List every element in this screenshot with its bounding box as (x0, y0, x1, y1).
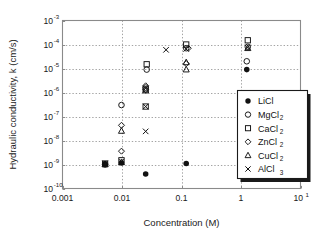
ytick-label: 10-5 (43, 61, 65, 73)
xtick-exponent: 1 (306, 191, 310, 198)
ytick-mantissa: 10 (43, 16, 53, 26)
xtick-value: 10 (294, 193, 304, 203)
legend-label: ZnCl (258, 137, 277, 147)
ytick-exponent: -3 (54, 13, 60, 20)
legend-label: LiCl (258, 96, 274, 106)
ytick-mantissa: 10 (43, 160, 53, 170)
data-point-marker (183, 161, 189, 167)
ytick-mantissa: 10 (43, 88, 53, 98)
xtick-value: 1 (239, 193, 244, 203)
ytick-exponent: -8 (54, 133, 60, 140)
ytick-mantissa: 10 (43, 136, 53, 146)
ytick-label: 10-6 (43, 85, 65, 97)
xtick-value: 0.001 (52, 193, 74, 203)
ytick-label: 10-9 (43, 157, 65, 169)
data-point-marker (244, 67, 250, 73)
ytick-label: 10-8 (43, 133, 65, 145)
legend-subscript: 2 (280, 128, 284, 135)
xtick-value: 0.1 (176, 193, 188, 203)
ytick-label: 10-4 (43, 37, 65, 49)
ytick-exponent: -7 (54, 109, 60, 116)
ytick-exponent: -5 (54, 61, 60, 68)
legend-label: CuCl (258, 151, 278, 161)
legend-subscript: 3 (280, 169, 284, 176)
legend-subscript: 2 (280, 141, 284, 148)
ytick-mantissa: 10 (43, 40, 53, 50)
ytick-exponent: -10 (54, 181, 63, 188)
legend-label: AlCl (258, 164, 275, 174)
ytick-label: 10-3 (43, 13, 65, 25)
legend-label: MgCl (258, 110, 279, 120)
ytick-exponent: -9 (54, 157, 60, 164)
ytick-mantissa: 10 (43, 112, 53, 122)
figure-container: 10-310-410-510-610-710-810-910-100.0010.… (0, 0, 320, 235)
ytick-exponent: -4 (54, 37, 60, 44)
ytick-mantissa: 10 (43, 64, 53, 74)
hydraulic-conductivity-scatter-chart: 10-310-410-510-610-710-810-910-100.0010.… (0, 0, 320, 235)
ytick-exponent: -6 (54, 85, 60, 92)
y-axis-title: Hydraulic conductivity, k (cm/s) (7, 39, 18, 169)
xtick-value: 0.01 (114, 193, 131, 203)
data-point-marker (245, 98, 250, 103)
ytick-label: 10-10 (43, 181, 65, 193)
legend-subscript: 2 (280, 155, 284, 162)
legend-subscript: 2 (280, 114, 284, 121)
data-point-marker (143, 171, 149, 177)
ytick-label: 10-7 (43, 109, 65, 121)
x-axis-title: Concentration (M) (143, 217, 219, 228)
legend-label: CaCl (258, 124, 278, 134)
